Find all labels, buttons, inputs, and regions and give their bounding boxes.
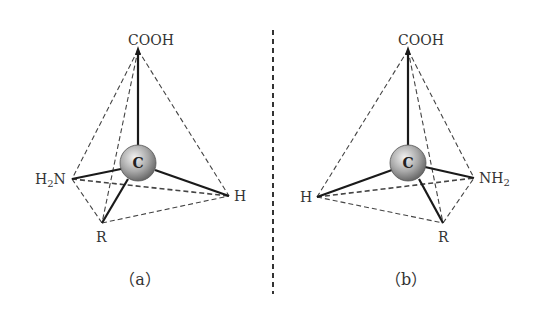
panel-b: C COOH H NH2 R （b） — [300, 32, 510, 289]
group-right-b: NH2 — [479, 170, 510, 188]
group-bottom-b: R — [438, 229, 449, 245]
group-bottom-a: R — [96, 229, 107, 245]
bonds-a — [72, 50, 229, 223]
tetrahedron-edges-a — [72, 50, 229, 223]
carbon-label-a: C — [132, 155, 143, 171]
group-left-b: H — [300, 189, 312, 205]
caption-b: （b） — [385, 270, 427, 289]
group-left-a: H2N — [35, 171, 66, 189]
panel-a: C COOH H2N H R （a） — [35, 32, 246, 289]
group-top-a: COOH — [128, 32, 174, 48]
tetrahedron-edges-b — [317, 50, 474, 223]
chirality-diagram: C COOH H2N H R （a） C COOH H NH2 R （ — [0, 0, 544, 310]
bonds-b — [317, 50, 474, 223]
group-top-b: COOH — [398, 32, 444, 48]
group-right-a: H — [234, 188, 246, 204]
carbon-label-b: C — [402, 155, 413, 171]
caption-a: （a） — [119, 270, 161, 289]
